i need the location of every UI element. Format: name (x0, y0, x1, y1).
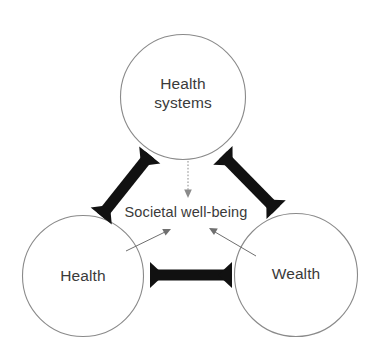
diagram-svg (0, 0, 381, 360)
node-label-health: Health (23, 266, 143, 285)
diagram-canvas: Healthsystems Health Wealth Societal wel… (0, 0, 381, 360)
arrow-health-systems-well-being[interactable] (184, 161, 192, 198)
node-label-health-systems-line1: Health (160, 75, 205, 92)
arrow-health-well-being[interactable] (126, 229, 171, 251)
center-label-societal-well-being: Societal well-being (111, 203, 261, 222)
node-label-health-systems: Healthsystems (123, 74, 243, 112)
arrow-health-wealth[interactable] (150, 262, 232, 288)
node-label-health-systems-line2: systems (154, 94, 212, 111)
node-label-wealth: Wealth (236, 264, 356, 283)
